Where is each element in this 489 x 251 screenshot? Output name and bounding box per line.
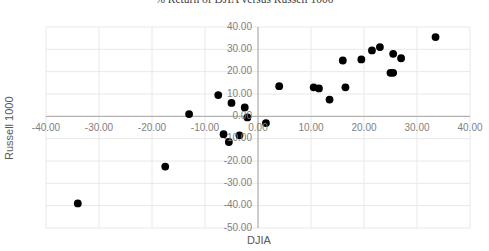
- data-point[interactable]: [161, 163, 169, 171]
- x-tick-label: 40.00: [445, 122, 489, 133]
- data-point[interactable]: [432, 33, 440, 41]
- y-tick-label: -10.00: [206, 132, 252, 143]
- data-point[interactable]: [368, 47, 376, 55]
- data-point[interactable]: [275, 82, 283, 90]
- data-point[interactable]: [357, 55, 365, 63]
- x-tick-label: 30.00: [392, 122, 442, 133]
- y-tick-label: -20.00: [206, 155, 252, 166]
- x-tick-label: -10.00: [180, 122, 230, 133]
- x-tick-label: -20.00: [127, 122, 177, 133]
- data-point[interactable]: [315, 85, 323, 93]
- data-point[interactable]: [389, 69, 397, 77]
- x-tick-label: -30.00: [74, 122, 124, 133]
- data-point[interactable]: [339, 57, 347, 65]
- x-tick-label: 10.00: [286, 122, 336, 133]
- y-tick-label: 40.00: [206, 21, 252, 32]
- data-point[interactable]: [397, 54, 405, 62]
- y-tick-label: 0.00: [206, 110, 252, 121]
- scatter-chart: % Return of DJIA versus Russell 1000 Rus…: [0, 0, 489, 251]
- x-tick-label: -40.00: [21, 122, 71, 133]
- y-tick-label: -30.00: [206, 177, 252, 188]
- data-point[interactable]: [326, 96, 334, 104]
- y-tick-label: 30.00: [206, 43, 252, 54]
- x-tick-label: 0.00: [233, 122, 283, 133]
- data-point[interactable]: [389, 50, 397, 58]
- y-tick-label: 20.00: [206, 65, 252, 76]
- data-point[interactable]: [342, 83, 350, 91]
- data-point[interactable]: [228, 99, 236, 107]
- y-tick-label: -50.00: [206, 222, 252, 233]
- x-tick-label: 20.00: [339, 122, 389, 133]
- data-point[interactable]: [185, 110, 193, 118]
- data-point[interactable]: [74, 200, 82, 208]
- data-point[interactable]: [376, 43, 384, 51]
- y-tick-label: -40.00: [206, 199, 252, 210]
- y-tick-label: 10.00: [206, 88, 252, 99]
